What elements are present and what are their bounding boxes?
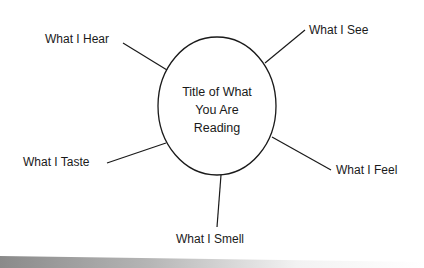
- page-edge-shadow: [0, 256, 424, 268]
- spoke-taste: [107, 143, 166, 163]
- spoke-label-taste: What I Taste: [23, 155, 89, 169]
- center-line-1: Title of What: [167, 83, 267, 101]
- spoke-see: [265, 30, 305, 63]
- center-line-2: You Are: [167, 101, 267, 119]
- spoke-label-smell: What I Smell: [176, 232, 244, 246]
- center-line-3: Reading: [167, 119, 267, 137]
- spoke-label-hear: What I Hear: [45, 32, 109, 46]
- center-title: Title of What You Are Reading: [167, 83, 267, 137]
- spoke-feel: [272, 137, 331, 170]
- spoke-hear: [123, 43, 167, 70]
- spoke-smell: [217, 175, 221, 227]
- spoke-label-see: What I See: [309, 23, 368, 37]
- spoke-label-feel: What I Feel: [336, 163, 397, 177]
